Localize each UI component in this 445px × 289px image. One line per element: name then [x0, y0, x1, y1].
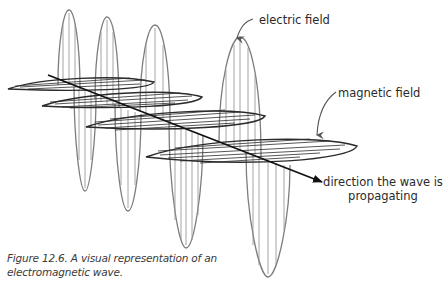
magnetic-field-callout-arrow [317, 92, 336, 135]
caption-line-2: electromagnetic wave. [7, 266, 217, 280]
propagation-axis-arrow [48, 75, 322, 182]
magnetic-field-label: magnetic field [338, 86, 420, 100]
electromagnetic-wave-diagram [0, 0, 445, 289]
electric-field-callout-arrow [237, 19, 253, 38]
direction-label-line1: direction the wave is [322, 175, 444, 189]
electric-field-lobes [58, 10, 290, 277]
direction-label-line2: propagating [322, 189, 444, 203]
propagation-direction-label: direction the wave is propagating [322, 175, 444, 203]
magnetic-field-loops [8, 78, 357, 163]
figure-caption: Figure 12.6. A visual representation of … [7, 252, 217, 279]
magnetic-vectors-2 [50, 93, 192, 108]
electric-field-label: electric field [259, 13, 330, 27]
caption-line-1: Figure 12.6. A visual representation of … [7, 252, 217, 266]
